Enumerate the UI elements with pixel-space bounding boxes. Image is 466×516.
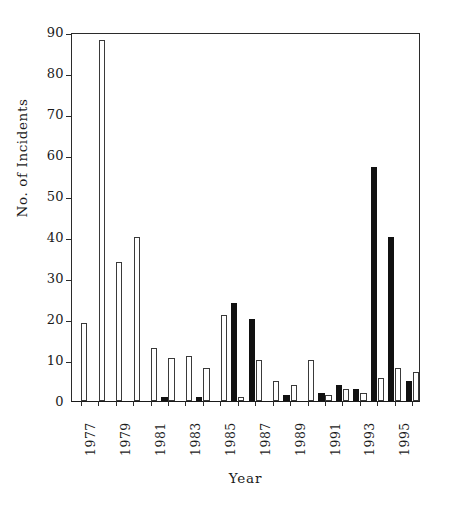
y-axis-tick-label: 80 xyxy=(24,67,64,80)
bar-filled-bars-1982 xyxy=(161,397,167,401)
bar-open-bars-1995 xyxy=(395,368,401,401)
y-axis-tick xyxy=(66,116,72,117)
x-axis-title: Year xyxy=(71,470,420,486)
x-axis-tick-label: 1985 xyxy=(225,422,238,456)
bar-open-bars-1989 xyxy=(291,385,297,401)
bar-open-bars-1978 xyxy=(99,40,105,401)
bar-open-bars-1981 xyxy=(151,348,157,401)
y-axis-tick xyxy=(66,239,72,240)
bar-open-bars-1988 xyxy=(273,381,279,402)
bar-open-bars-1994 xyxy=(378,378,384,401)
y-axis-tick-label: 40 xyxy=(24,231,64,244)
x-axis-tick-label: 1995 xyxy=(399,422,412,456)
bar-open-bars-1980 xyxy=(134,237,140,401)
bar-filled-bars-1987 xyxy=(249,319,255,401)
bar-open-bars-1984 xyxy=(203,368,209,401)
bars-container xyxy=(72,34,419,401)
y-axis-tick xyxy=(66,280,72,281)
y-axis-tick xyxy=(66,75,72,76)
x-axis-labels: 1977197919811983198519871989199119931995 xyxy=(71,404,420,466)
y-axis-tick-label: 60 xyxy=(24,149,64,162)
y-axis-tick-label: 50 xyxy=(24,190,64,203)
y-axis-tick-label: 0 xyxy=(24,395,64,408)
bar-open-bars-1987 xyxy=(256,360,262,401)
y-axis-tick-label: 90 xyxy=(24,26,64,39)
x-axis-tick-label: 1981 xyxy=(155,422,168,456)
bar-open-bars-1991 xyxy=(325,395,331,401)
bar-open-bars-1985 xyxy=(221,315,227,401)
bar-open-bars-1990 xyxy=(308,360,314,401)
bar-filled-bars-1994 xyxy=(371,167,377,401)
y-axis-tick-label: 10 xyxy=(24,354,64,367)
y-axis-tick-label: 30 xyxy=(24,272,64,285)
bar-open-bars-1992 xyxy=(343,389,349,401)
x-axis-tick-label: 1987 xyxy=(260,422,273,456)
bar-filled-bars-1993 xyxy=(353,389,359,401)
y-axis-tick-label: 20 xyxy=(24,313,64,326)
x-axis-tick-label: 1989 xyxy=(295,422,308,456)
bar-open-bars-1977 xyxy=(81,323,87,401)
bar-filled-bars-1984 xyxy=(196,397,202,401)
x-axis-tick-label: 1979 xyxy=(120,422,133,456)
bar-open-bars-1996 xyxy=(413,372,419,401)
bar-filled-bars-1992 xyxy=(336,385,342,401)
bar-open-bars-1986 xyxy=(238,397,244,401)
bar-filled-bars-1995 xyxy=(388,237,394,401)
bar-open-bars-1993 xyxy=(360,393,366,401)
bar-filled-bars-1991 xyxy=(318,393,324,401)
x-axis-tick-label: 1977 xyxy=(85,422,98,456)
bar-filled-bars-1996 xyxy=(406,381,412,402)
y-axis-tick xyxy=(66,157,72,158)
bar-open-bars-1979 xyxy=(116,262,122,401)
bar-filled-bars-1986 xyxy=(231,303,237,401)
y-axis-tick xyxy=(66,321,72,322)
y-axis-tick xyxy=(66,198,72,199)
x-axis-tick-label: 1991 xyxy=(330,422,343,456)
bar-open-bars-1982 xyxy=(168,358,174,401)
bar-chart-figure: No. of Incidents 0102030405060708090 197… xyxy=(0,0,466,516)
y-axis-tick xyxy=(66,34,72,35)
y-axis-labels: 0102030405060708090 xyxy=(20,33,64,402)
y-axis-tick xyxy=(66,362,72,363)
y-axis-tick-label: 70 xyxy=(24,108,64,121)
bar-filled-bars-1989 xyxy=(283,395,289,401)
x-axis-tick-label: 1983 xyxy=(190,422,203,456)
bar-open-bars-1983 xyxy=(186,356,192,401)
x-axis-tick-label: 1993 xyxy=(364,422,377,456)
plot-area xyxy=(71,33,420,402)
